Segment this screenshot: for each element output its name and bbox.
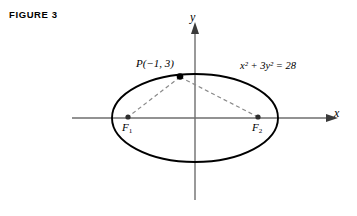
point-p-label: P(−1, 3) [136, 57, 174, 69]
focus-2-letter: F [252, 121, 259, 133]
point-p-marker [177, 73, 184, 80]
figure-container: FIGURE 3 y x P(−1, 3) x² + 3y² = 28 F1 F… [0, 0, 357, 216]
focus-2-label: F2 [252, 121, 262, 135]
x-axis-label: x [334, 106, 339, 121]
focus-2-subscript: 2 [259, 127, 263, 135]
ellipse-plot [0, 0, 357, 216]
focus-1-subscript: 1 [129, 127, 133, 135]
focus-1-label: F1 [122, 121, 132, 135]
segment-p-to-focus-1 [128, 77, 180, 117]
y-axis-label: y [190, 10, 195, 25]
ellipse-equation-label: x² + 3y² = 28 [240, 60, 296, 71]
focus-2-marker [255, 114, 260, 119]
focus-1-letter: F [122, 121, 129, 133]
focus-1-marker [125, 114, 130, 119]
